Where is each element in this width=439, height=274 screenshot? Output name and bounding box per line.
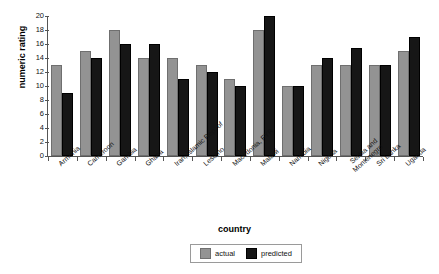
bar-group	[163, 16, 192, 156]
bar-predicted	[178, 79, 189, 156]
bar-group	[221, 16, 250, 156]
bar-group	[308, 16, 337, 156]
legend-label-actual: actual	[215, 249, 235, 258]
bar-group	[394, 16, 423, 156]
y-tick-label: 0	[26, 152, 44, 160]
bar-actual	[282, 86, 293, 156]
legend-swatch-predicted	[246, 248, 257, 259]
bar-predicted	[380, 65, 391, 156]
bar-group	[77, 16, 106, 156]
bar-predicted	[293, 86, 304, 156]
y-tick-label: 8	[26, 96, 44, 104]
legend-swatch-actual	[200, 248, 211, 259]
bar-actual	[51, 65, 62, 156]
bar-predicted	[120, 44, 131, 156]
x-axis-title: country	[47, 224, 422, 234]
bar-actual	[311, 65, 322, 156]
bar-group	[365, 16, 394, 156]
bar-actual	[138, 58, 149, 156]
bar-predicted	[351, 48, 362, 157]
y-tick-label: 12	[26, 68, 44, 76]
y-tick-label: 10	[26, 82, 44, 90]
bar-group	[48, 16, 77, 156]
bar-actual	[398, 51, 409, 156]
bar-actual	[224, 79, 235, 156]
bar-actual	[167, 58, 178, 156]
bar-group	[279, 16, 308, 156]
bar-groups	[48, 16, 423, 156]
chart-legend: actual predicted	[190, 244, 302, 263]
legend-item-actual: actual	[200, 248, 235, 259]
bar-predicted	[322, 58, 333, 156]
legend-item-predicted: predicted	[246, 248, 292, 259]
legend-label-predicted: predicted	[261, 249, 292, 258]
bar-predicted	[62, 93, 73, 156]
bar-group	[336, 16, 365, 156]
y-tick-label: 16	[26, 40, 44, 48]
bar-actual	[109, 30, 120, 156]
bar-predicted	[149, 44, 160, 156]
bar-group	[135, 16, 164, 156]
bar-actual	[340, 65, 351, 156]
bar-group	[106, 16, 135, 156]
bar-chart: numeric rating 02468101214161820 Armenia…	[0, 0, 439, 274]
plot-area: 02468101214161820	[47, 16, 423, 157]
bar-predicted	[207, 72, 218, 156]
y-tick-label: 2	[26, 138, 44, 146]
y-tick-label: 6	[26, 110, 44, 118]
bar-predicted	[235, 86, 246, 156]
bar-predicted	[409, 37, 420, 156]
y-tick-label: 18	[26, 26, 44, 34]
x-axis-labels: ArmeniaCameroonGambiaGhanaIran, Islamic …	[47, 160, 422, 222]
bar-actual	[80, 51, 91, 156]
bar-predicted	[91, 58, 102, 156]
x-tick-mark	[423, 157, 424, 161]
y-tick-label: 4	[26, 124, 44, 132]
y-tick-label: 14	[26, 54, 44, 62]
y-tick-label: 20	[26, 12, 44, 20]
